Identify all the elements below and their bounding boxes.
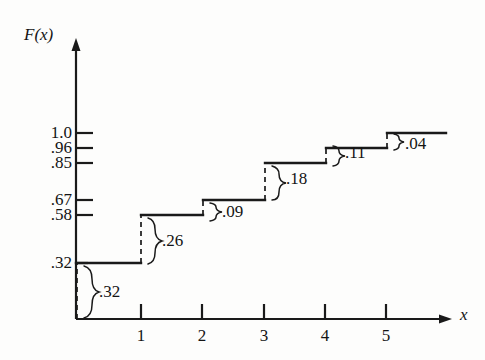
jump-brace-0 — [84, 266, 99, 318]
x-tick-label-2: 2 — [190, 327, 214, 344]
y-tick-label-0.32: .32 — [26, 254, 72, 271]
x-tick-label-3: 3 — [252, 327, 276, 344]
x-tick-marks — [141, 304, 386, 319]
jump-risers — [77, 133, 387, 319]
cdf-step-figure: F(x) x 1.0 .96 .85 .67 .58 .32 1 2 3 4 5… — [0, 0, 485, 360]
step-segments — [76, 133, 446, 263]
x-tick-label-1: 1 — [129, 327, 153, 344]
jump-label-0.09: .09 — [222, 203, 243, 220]
jump-brace-2 — [210, 203, 222, 221]
jump-brace-3 — [272, 166, 286, 200]
jump-brace-1 — [148, 218, 162, 264]
x-tick-label-4: 4 — [313, 327, 337, 344]
jump-label-0.11: .11 — [345, 144, 366, 161]
y-axis-title: F(x) — [24, 26, 53, 43]
y-tick-label-0.58: .58 — [26, 206, 72, 223]
y-tick-marks — [76, 133, 93, 263]
jump-brace-5 — [394, 134, 404, 150]
x-tick-label-5: 5 — [374, 327, 398, 344]
jump-label-0.04: .04 — [405, 135, 426, 152]
jump-label-0.32: .32 — [99, 283, 120, 300]
jump-label-0.26: .26 — [162, 232, 183, 249]
plot-canvas — [0, 0, 485, 360]
x-axis-title: x — [460, 306, 468, 323]
jump-label-0.18: .18 — [286, 170, 307, 187]
y-tick-label-0.85: .85 — [26, 154, 72, 171]
y-axis — [72, 38, 81, 319]
